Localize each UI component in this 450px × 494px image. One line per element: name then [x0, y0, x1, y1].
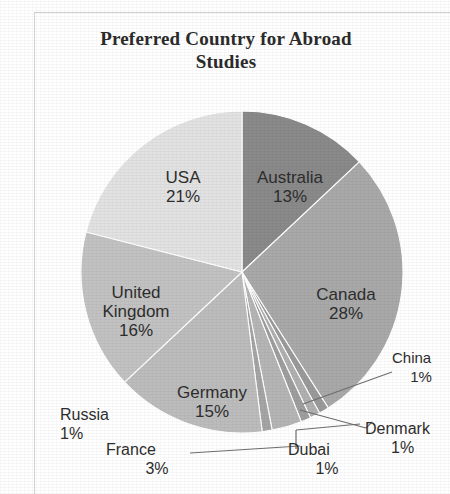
- slice-label-denmark-name: Denmark: [365, 420, 430, 437]
- slice-label-australia-value: 13%: [240, 187, 340, 206]
- slice-label-china: China1%: [392, 348, 450, 386]
- slice-label-canada-name: Canada: [316, 285, 376, 304]
- slice-label-denmark-value: 1%: [365, 438, 450, 457]
- slice-label-canada: Canada28%: [300, 285, 392, 323]
- slice-label-china-value: 1%: [392, 367, 450, 386]
- slice-label-france-value: 3%: [106, 459, 192, 478]
- leader-line-dubai-top: [296, 424, 360, 430]
- slice-label-france-name: France: [106, 441, 156, 458]
- slice-label-germany-name: Germany: [177, 383, 247, 402]
- slice-label-united-kingdom: UnitedKingdom16%: [84, 283, 188, 340]
- slice-label-france: France3%: [106, 440, 192, 478]
- slice-label-dubai: Dubai1%: [288, 440, 364, 478]
- slice-label-russia-name: Russia: [60, 406, 109, 423]
- slice-label-uk-name-line-1: United: [111, 283, 160, 302]
- slice-label-dubai-value: 1%: [288, 459, 364, 478]
- slice-label-uk-name-line-2: Kingdom: [84, 302, 188, 321]
- slice-label-usa-name: USA: [166, 168, 201, 187]
- slice-label-australia: Australia13%: [240, 168, 340, 206]
- slice-label-australia-name: Australia: [257, 168, 323, 187]
- slice-label-germany-value: 15%: [166, 402, 258, 421]
- slice-label-usa: USA21%: [140, 168, 226, 206]
- leader-line-denmark: [300, 410, 366, 428]
- slice-label-canada-value: 28%: [300, 304, 392, 323]
- slice-label-russia: Russia1%: [60, 405, 132, 443]
- slice-label-denmark: Denmark1%: [365, 419, 450, 457]
- slice-label-germany: Germany15%: [166, 383, 258, 421]
- slice-label-usa-value: 21%: [140, 187, 226, 206]
- slice-label-dubai-name: Dubai: [288, 441, 330, 458]
- leader-line-france: [190, 446, 300, 453]
- slice-label-china-name: China: [392, 349, 431, 366]
- slice-label-uk-value: 16%: [84, 321, 188, 340]
